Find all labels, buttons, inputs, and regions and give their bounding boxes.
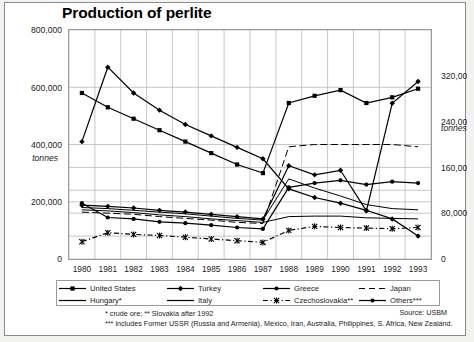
y-tick-right: 160,000 [441, 163, 467, 173]
chart-figure: Production of perlite 0200,000400,000600… [4, 2, 466, 336]
legend-label: Japan [388, 284, 411, 293]
x-tick-year: 1990 [331, 264, 350, 274]
y-axis-right-ticks: 080,000160,000240,000320,000 [441, 71, 467, 264]
y-tick-left: 800,000 [31, 25, 62, 35]
diamond-line-icon [165, 283, 196, 294]
x-tick-year: 1985 [202, 264, 221, 274]
legend-item[interactable]: Czechoslovakia** [261, 294, 357, 306]
x-tick-year: 1981 [99, 264, 118, 274]
square-line-icon [57, 283, 88, 294]
footnote-two: *** includes Former USSR (Russia and Arm… [105, 319, 453, 328]
legend-item[interactable]: Greece [261, 282, 357, 294]
circle-line-icon [357, 295, 388, 306]
footnote-one: * crude ore; ** Slovakia after 1992 [105, 309, 213, 318]
x-tick-year: 1984 [176, 264, 195, 274]
y-tick-right: 320,000 [441, 71, 467, 81]
plain-line-icon [57, 295, 88, 306]
x-tick-year: 1982 [124, 264, 143, 274]
x-tick-year: 1987 [254, 264, 273, 274]
chart-legend: United StatesTurkeyGreeceJapan Hungary*I… [56, 280, 440, 306]
chart-notes: * crude ore; ** Slovakia after 1992 *** … [5, 308, 467, 336]
legend-item[interactable]: Italy [165, 294, 261, 306]
x-tick-year: 1992 [383, 264, 402, 274]
legend-label: Czechoslovakia** [292, 296, 353, 305]
legend-label: Greece [292, 284, 319, 293]
legend-item[interactable]: Hungary* [57, 294, 165, 306]
legend-label: Hungary* [88, 296, 122, 305]
legend-item[interactable]: Japan [357, 282, 441, 294]
legend-label: Others*** [388, 296, 422, 305]
y-tick-left: 600,000 [31, 83, 62, 93]
x-tick-year: 1988 [280, 264, 299, 274]
source-label: Source: USBM [399, 308, 447, 317]
y-axis-left-ticks: 0200,000400,000600,000800,000 [31, 25, 62, 264]
y-tick-right: 80,000 [441, 208, 467, 218]
legend-label: Turkey [196, 284, 221, 293]
x-tick-year: 1986 [228, 264, 247, 274]
legend-row-1: United StatesTurkeyGreeceJapan [57, 282, 441, 294]
legend-row-2: Hungary*ItalyCzechoslovakia**Others*** [57, 294, 441, 306]
plain-line-icon [165, 295, 196, 306]
x-tick-year: 1993 [409, 264, 428, 274]
y-tick-right: 0 [441, 254, 446, 264]
cross-dashdot-line-icon [261, 295, 292, 306]
y-axis-left-unit: tonnes [32, 153, 59, 163]
y-tick-left: 200,000 [31, 197, 62, 207]
x-tick-year: 1991 [357, 264, 376, 274]
circle-line-icon [261, 283, 292, 294]
x-tick-year: 1983 [150, 264, 169, 274]
x-tick-year: 1989 [305, 264, 324, 274]
dashed-line-icon [357, 283, 388, 294]
y-tick-left: 0 [57, 254, 62, 264]
x-tick-year: 1980 [73, 264, 92, 274]
y-axis-right-unit: tonnes [441, 123, 467, 133]
legend-label: United States [88, 284, 136, 293]
legend-item[interactable]: Turkey [165, 282, 261, 294]
legend-item[interactable]: Others*** [357, 294, 441, 306]
y-tick-left: 400,000 [31, 140, 62, 150]
x-axis-ticks: 1980198119821983198419851986198719881989… [73, 264, 428, 274]
legend-item[interactable]: United States [57, 282, 165, 294]
legend-label: Italy [196, 296, 212, 305]
